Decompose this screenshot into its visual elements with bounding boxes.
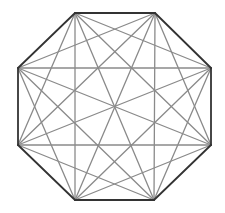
diagonal-line	[18, 13, 155, 145]
octagon-diagram	[0, 0, 225, 213]
octagon-edge	[154, 145, 211, 200]
octagon-edge	[155, 13, 211, 68]
octagon-edge	[18, 13, 75, 68]
diagonal-line	[75, 13, 211, 145]
diagonal-line	[75, 68, 211, 200]
diagonal-line	[18, 68, 154, 200]
diagonal-line	[154, 13, 155, 200]
octagon-edge	[18, 145, 75, 200]
